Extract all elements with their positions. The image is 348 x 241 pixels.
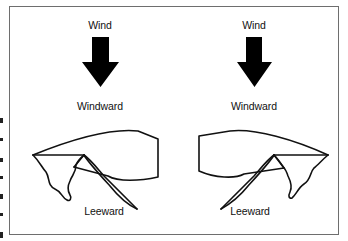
right-sail-diagram	[199, 131, 328, 209]
left-windward-label: Windward	[77, 100, 123, 112]
right-leeward-label: Leeward	[230, 205, 270, 217]
left-wind-label: Wind	[88, 19, 112, 31]
diagram-canvas	[0, 0, 348, 241]
left-leeward-label: Leeward	[84, 205, 124, 217]
right-wind-arrow-icon	[237, 37, 272, 87]
right-wind-label: Wind	[242, 19, 266, 31]
left-sail-diagram	[33, 131, 158, 209]
left-wind-arrow-icon	[82, 37, 119, 87]
right-windward-label: Windward	[231, 100, 277, 112]
